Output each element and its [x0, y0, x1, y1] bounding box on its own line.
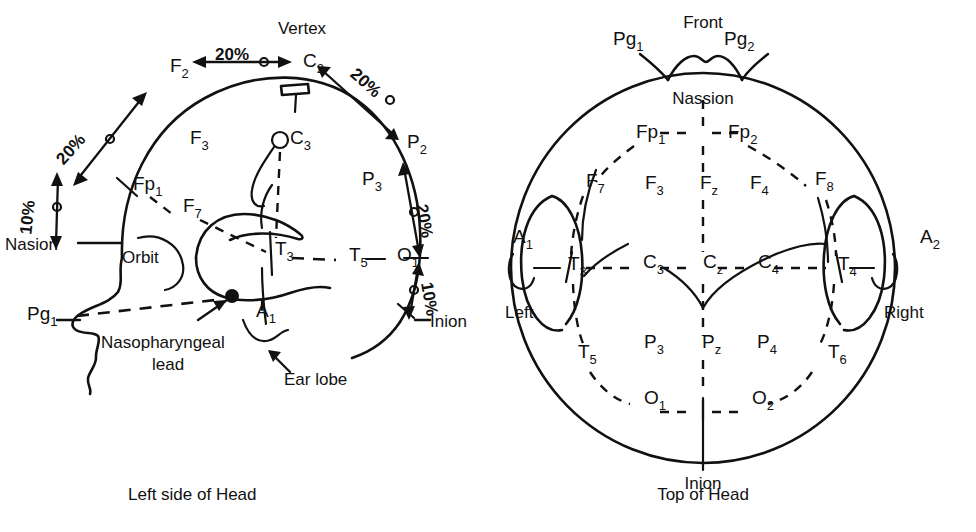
electrode-label-f3: F3 — [190, 127, 209, 153]
cz-electrode-block — [281, 84, 309, 95]
electrode-label-c3: C3 — [290, 127, 311, 153]
electrode-label-f3: F3 — [645, 172, 664, 198]
label-front: Front — [683, 13, 723, 32]
electrode-label-t3: T3 — [275, 238, 294, 264]
percent-label-5: 10% — [417, 281, 442, 318]
t3-t5-link — [292, 258, 336, 260]
pct-arrowhead-20b-rt — [278, 56, 292, 68]
electrode-label-a2: A2 — [920, 226, 940, 252]
pct-arrowhead-20b-lt — [192, 56, 206, 68]
label-nasion: Nasion — [5, 235, 58, 254]
label-nasopharyngeal-lead-1: Nasopharyngeal — [101, 333, 225, 352]
central-seam-right-tail — [776, 243, 826, 254]
pct-arrowhead-10-nasion-top — [51, 172, 63, 186]
electrode-label-c3: C3 — [643, 251, 664, 277]
electrode-label-fp2: Fp2 — [728, 121, 757, 147]
electrode-label-t3: T3 — [568, 253, 587, 279]
electrode-label-pg1: Pg1 — [613, 28, 643, 54]
c3-lead-wire — [252, 147, 274, 206]
jaw-outline — [352, 322, 400, 358]
eeg-1020-figure: Vertex Nasion Orbit Inion Ear lobe Nasop… — [0, 0, 976, 532]
pg2-leader-top — [742, 54, 768, 80]
label-nassion: Nassion — [672, 89, 733, 108]
label-nasopharyngeal-lead-2: lead — [152, 355, 184, 374]
label-right: Right — [884, 303, 924, 322]
central-seam-left — [664, 268, 703, 308]
c3-electrode-ring — [272, 132, 288, 148]
electrode-label-f4: F4 — [750, 172, 769, 198]
electrode-label-f2: F2 — [170, 55, 189, 81]
electrode-label-t5: T5 — [578, 341, 597, 367]
electrode-label-p2: P2 — [407, 131, 427, 157]
fp1-f7-link — [150, 197, 172, 214]
right-view-title: Top of Head — [657, 485, 749, 504]
nasopharyngeal-electrode-dot — [225, 289, 239, 303]
electrode-label-f8: F8 — [815, 168, 834, 194]
electrode-label-pg2: Pg2 — [724, 28, 754, 54]
pg1-leader-top — [640, 54, 668, 80]
arc-fp1-f7 — [596, 146, 634, 182]
label-ear-lobe: Ear lobe — [284, 370, 347, 389]
arc-t6-o2 — [768, 372, 812, 404]
nose-bump — [668, 56, 742, 80]
electrode-label-pg1: Pg1 — [27, 303, 57, 329]
label-left: Left — [505, 303, 534, 322]
percent-label-0: 20% — [215, 45, 249, 64]
electrode-label-p4: P4 — [757, 331, 777, 357]
electrode-label-t5: T5 — [349, 244, 368, 270]
electrode-label-p3: P3 — [362, 168, 382, 194]
arc-t5-o1 — [590, 372, 630, 404]
pct-arrowhead-20a-hi — [132, 92, 147, 106]
label-vertex: Vertex — [278, 19, 327, 38]
pct-arrow-20-fp1-f3 — [77, 98, 142, 180]
electrode-label-c2: C2 — [303, 50, 324, 76]
eeg-diagram-svg: Vertex Nasion Orbit Inion Ear lobe Nasop… — [0, 0, 976, 532]
cz-lead-wire — [295, 95, 296, 112]
pct-mid-ring-20c — [386, 96, 394, 104]
label-orbit: Orbit — [122, 248, 159, 267]
percent-label-2: 20% — [52, 130, 89, 168]
electrode-label-f7: F7 — [183, 195, 202, 221]
face-profile — [73, 258, 122, 394]
nasopharyngeal-lead-path — [77, 300, 215, 316]
pct-arrowhead-20a-lo — [73, 172, 88, 186]
electrode-label-o1: O1 — [644, 387, 666, 413]
t3-tick — [270, 232, 272, 275]
electrode-label-cz: Cz — [703, 251, 723, 277]
percent-label-4: 10% — [16, 200, 38, 236]
electrode-label-o2: O2 — [752, 387, 774, 413]
c3-t3-vertical — [276, 152, 280, 238]
skull-outline-side — [122, 78, 420, 322]
electrode-label-fp1: Fp1 — [636, 121, 665, 147]
electrode-label-p3: P3 — [644, 331, 664, 357]
c3-t3-seam — [584, 244, 628, 276]
electrode-label-pz: Pz — [702, 331, 721, 357]
electrode-label-t6: T6 — [828, 341, 847, 367]
left-view-title: Left side of Head — [128, 485, 257, 504]
electrode-label-fz: Fz — [700, 172, 718, 198]
